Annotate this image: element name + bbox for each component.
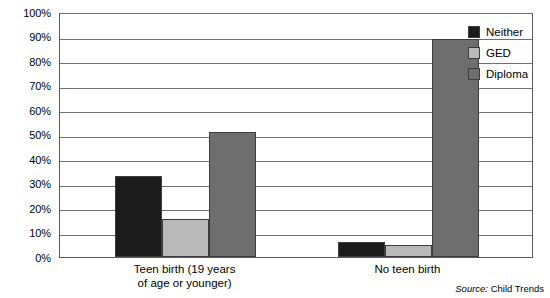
- y-axis-tick-label: 60%: [1, 106, 51, 117]
- source-note: Source: Child Trends: [455, 283, 544, 294]
- legend-item[interactable]: GED: [468, 43, 550, 62]
- category-label-line: Teen birth (19 years: [75, 262, 295, 276]
- legend-swatch-icon: [468, 47, 480, 59]
- y-axis-tick-label: 0%: [1, 253, 51, 264]
- bar-chart: 100%90%80%70%60%50%40%30%20%10%0% Teen b…: [0, 0, 550, 298]
- y-axis-tick-label: 100%: [1, 8, 51, 19]
- category-label-line: No teen birth: [297, 262, 517, 276]
- plot-area: [59, 13, 533, 258]
- y-axis-tick-label: 40%: [1, 155, 51, 166]
- y-axis-tick-label: 70%: [1, 81, 51, 92]
- chart-legend: NeitherGEDDiploma: [468, 22, 550, 85]
- bar-group: [115, 14, 256, 257]
- legend-item[interactable]: Neither: [468, 22, 550, 41]
- y-axis-tick-label: 20%: [1, 204, 51, 215]
- y-axis: 100%90%80%70%60%50%40%30%20%10%0%: [0, 0, 56, 298]
- legend-label: GED: [486, 47, 511, 59]
- y-axis-tick-label: 30%: [1, 179, 51, 190]
- legend-swatch-icon: [468, 26, 480, 38]
- bars-layer: [60, 14, 532, 257]
- bar: [385, 245, 432, 257]
- x-axis-category-label: No teen birth: [297, 262, 517, 276]
- y-axis-tick-label: 50%: [1, 130, 51, 141]
- bar: [338, 242, 385, 257]
- y-axis-tick-label: 10%: [1, 228, 51, 239]
- legend-label: Neither: [486, 26, 523, 38]
- source-prefix-label: Source:: [455, 283, 488, 294]
- legend-swatch-icon: [468, 68, 480, 80]
- bar: [115, 176, 162, 257]
- y-axis-tick-label: 80%: [1, 57, 51, 68]
- legend-label: Diploma: [486, 68, 528, 80]
- bar-group: [338, 14, 479, 257]
- x-axis-category-label: Teen birth (19 yearsof age or younger): [75, 262, 295, 290]
- legend-item[interactable]: Diploma: [468, 64, 550, 83]
- source-organization-label: Child Trends: [491, 283, 544, 294]
- bar: [209, 132, 256, 257]
- bar: [162, 219, 209, 257]
- category-label-line: of age or younger): [75, 276, 295, 290]
- y-axis-tick-label: 90%: [1, 32, 51, 43]
